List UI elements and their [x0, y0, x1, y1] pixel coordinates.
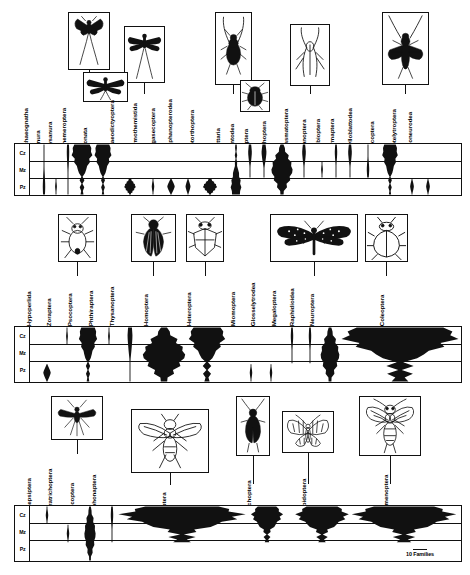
era-label-pz: Pz: [15, 361, 30, 378]
taxon-label: Psocoptera: [67, 293, 73, 326]
scale-bar-line: [413, 549, 427, 550]
spindle-miomoptera: [250, 364, 252, 381]
spindle-megaloptera: [291, 328, 293, 364]
spindle-glosselytrodea: [270, 364, 272, 381]
spindle-heteroptera: [189, 328, 225, 382]
spindle-plecoptera: [382, 145, 398, 195]
spindle-zoraptera: [66, 328, 68, 345]
spindle-megasecoptera: [167, 179, 174, 195]
era-label-cz: Cz: [15, 144, 30, 161]
spindle-protelytroptera: [410, 179, 414, 195]
spindle-phasmatoptera: [302, 145, 306, 178]
scale-bar-label: 10 Families: [393, 551, 447, 557]
spindle-strepsiptera: [46, 507, 48, 524]
spindle-grylloblattodea: [367, 145, 369, 178]
taxon-label: Neuroptera: [309, 294, 315, 326]
spindle-raphidioidea: [309, 328, 311, 364]
spindle-siphonaptera: [111, 507, 113, 543]
spindle-psocoptera: [79, 328, 97, 382]
spindle-lepidoptera: [295, 507, 349, 543]
spindle-thysanura: [67, 145, 69, 195]
spindle-protorthoptera: [203, 179, 217, 195]
taxon-label: Heteroptera: [186, 292, 192, 326]
spindle-paratrichoptera: [67, 525, 69, 542]
era-label-cz: Cz: [15, 506, 30, 523]
panel-1-plot: [30, 144, 461, 195]
taxon-label: Megaloptera: [271, 290, 277, 326]
spindle-odonata: [95, 145, 112, 195]
spindle-mantodea: [248, 145, 252, 178]
spindle-isoptera: [262, 145, 267, 178]
panel-3: Strepsiptera Paratrichoptera Mecoptera S…: [0, 388, 470, 575]
era-label-cz: Cz: [15, 327, 30, 344]
spindle-blattaria: [231, 145, 242, 195]
spindle-dermaptera: [348, 145, 352, 178]
taxon-label: Coleoptera: [379, 294, 385, 326]
panel-2-plot: [30, 327, 461, 382]
taxon-label: Phthiraptera: [88, 291, 94, 327]
spindle-mecoptera: [84, 507, 95, 561]
scale-bar: 10 Families: [393, 549, 447, 557]
era-gutter: Cz Mz Pz: [15, 144, 30, 195]
spindle-thysanoptera: [128, 328, 133, 382]
spindle-caloneurodea: [426, 179, 430, 195]
taxon-label: Miomoptera: [230, 292, 236, 326]
spindle-embioptera: [335, 145, 337, 178]
era-label-mz: Mz: [15, 523, 30, 540]
era-label-mz: Mz: [15, 161, 30, 178]
spindle-ephemeroptera: [72, 145, 93, 195]
era-label-mz: Mz: [15, 344, 30, 361]
spindle-trichoptera: [251, 507, 283, 543]
taxon-label: Hypoperlida: [26, 291, 32, 326]
taxon-label: Homoptera: [143, 294, 149, 326]
era-gutter: Cz Mz Pz: [15, 327, 30, 382]
spindle-diptera: [118, 507, 245, 543]
panel-3-chart: Cz Mz Pz 10 Families: [14, 505, 462, 562]
era-label-pz: Pz: [15, 178, 30, 195]
spindle-hypoperlida: [43, 364, 50, 381]
panel-2: Hypoperlida Zoraptera Psocoptera Phthira…: [0, 200, 470, 388]
spindle-palaeodictyoptera: [124, 179, 135, 195]
spindle-hymenoptera: [352, 507, 457, 543]
taxon-label: Glosselytrodea: [250, 282, 256, 326]
spindle-orthoptera: [271, 145, 292, 195]
spindle-coleoptera: [342, 328, 459, 382]
spindle-homoptera: [143, 328, 185, 382]
era-gutter: Cz Mz Pz: [15, 506, 30, 561]
panel-1: Archaeognatha Monura Thysanura Ephemerop…: [0, 0, 470, 200]
panel-1-chart: Cz Mz Pz: [14, 143, 462, 196]
spindle-phthiraptera: [108, 328, 110, 345]
era-label-pz: Pz: [15, 540, 30, 557]
panel-2-chart: Cz Mz Pz: [14, 326, 462, 383]
taxon-label: Zoraptera: [46, 298, 52, 326]
spindle-diaphanopterodea: [186, 179, 191, 195]
spindle-neuroptera: [321, 328, 340, 382]
spindle-monura: [55, 179, 57, 195]
spindle-archaeognatha: [43, 145, 45, 195]
insect-diversity-figure: Archaeognatha Monura Thysanura Ephemerop…: [0, 0, 470, 575]
taxon-label: Thysanoptera: [109, 286, 115, 326]
taxon-label: Raphidioidea: [289, 288, 295, 326]
spindle-permothemistida: [152, 179, 154, 195]
spindle-titanoptera: [321, 162, 323, 178]
